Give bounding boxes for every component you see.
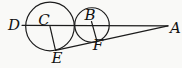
point-label-A: A bbox=[168, 19, 181, 37]
point-label-F: F bbox=[92, 36, 104, 54]
point-label-E: E bbox=[51, 49, 63, 67]
geometry-figure: D C B A E F bbox=[0, 0, 182, 68]
point-label-B: B bbox=[83, 6, 95, 24]
point-label-D: D bbox=[7, 16, 20, 34]
geometry-diagram: D C B A E F bbox=[0, 0, 182, 68]
point-label-C: C bbox=[38, 11, 50, 29]
